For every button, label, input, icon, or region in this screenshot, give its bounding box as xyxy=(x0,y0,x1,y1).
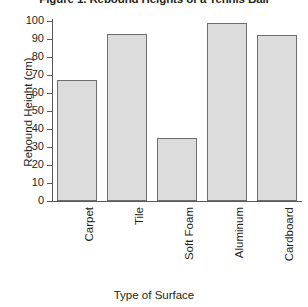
y-tick-label: 60 xyxy=(14,87,44,98)
chart-title: Figure 1. Rebound Heights of a Tennis Ba… xyxy=(0,0,308,5)
x-tick-label-cardboard: Cardboard xyxy=(283,207,295,261)
x-axis-title: Type of Surface xyxy=(0,289,308,301)
y-tick-label: 100 xyxy=(14,15,44,26)
y-tick-label: 30 xyxy=(14,141,44,152)
plot-area xyxy=(52,18,302,201)
x-tick-label-carpet: Carpet xyxy=(83,207,95,242)
bar-carpet xyxy=(57,80,97,201)
y-tick-mark xyxy=(47,201,52,202)
y-tick-label: 90 xyxy=(14,33,44,44)
y-tick-label: 50 xyxy=(14,105,44,116)
x-tick-label-tile: Tile xyxy=(133,207,145,225)
y-tick-label: 40 xyxy=(14,123,44,134)
bar-aluminum xyxy=(207,23,247,201)
bar-cardboard xyxy=(257,35,297,201)
y-tick-label: 70 xyxy=(14,69,44,80)
y-tick-label: 10 xyxy=(14,177,44,188)
bar-tile xyxy=(107,34,147,201)
y-tick-label: 20 xyxy=(14,159,44,170)
y-tick-label: 0 xyxy=(14,195,44,206)
y-tick-label: 80 xyxy=(14,51,44,62)
x-tick-label-soft-foam: Soft Foam xyxy=(183,207,195,260)
bar-chart-figure: Figure 1. Rebound Heights of a Tennis Ba… xyxy=(0,0,308,307)
x-axis-line xyxy=(52,201,302,202)
bar-soft-foam xyxy=(157,138,197,201)
x-tick-label-aluminum: Aluminum xyxy=(233,207,245,258)
